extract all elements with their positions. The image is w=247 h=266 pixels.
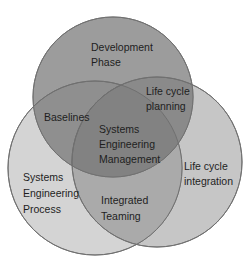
label-baselines: Baselines	[44, 111, 90, 123]
venn-diagram: Development Phase Life cycle planning Ba…	[0, 0, 247, 266]
